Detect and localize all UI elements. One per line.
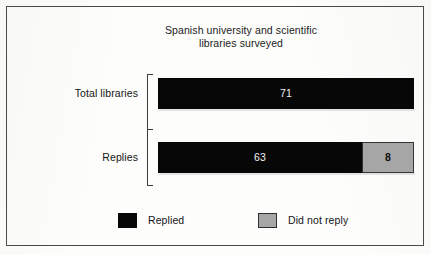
legend-swatch-icon (258, 213, 277, 228)
category-label-total-libraries: Total libraries (18, 87, 138, 99)
bar-segment-replied: 71 (158, 78, 414, 109)
plot-area: 71 63 8 (158, 72, 416, 188)
bar-row-replies: 63 8 (158, 142, 414, 173)
bar-row-total-libraries: 71 (158, 78, 414, 109)
bar-segment-replied: 63 (158, 142, 362, 173)
bar-value-label: 8 (385, 152, 391, 163)
chart-title: Spanish university and scientific librar… (118, 24, 364, 50)
axis-tick-middle (147, 129, 153, 130)
bar-segment-did-not-reply: 8 (362, 142, 414, 173)
category-axis-bracket (147, 74, 155, 186)
legend-swatch-icon (118, 213, 137, 228)
legend-label-replied: Replied (148, 214, 184, 226)
legend-label-did-not-reply: Did not reply (288, 214, 348, 226)
category-label-replies: Replies (18, 151, 138, 163)
chart-figure: Spanish university and scientific librar… (0, 0, 431, 255)
legend-item-replied: Replied (118, 210, 184, 230)
bar-value-label: 63 (254, 152, 266, 163)
axis-tick-top (147, 74, 153, 75)
chart-legend: Replied Did not reply (28, 210, 398, 236)
legend-item-did-not-reply: Did not reply (258, 210, 348, 230)
axis-tick-bottom (147, 185, 153, 186)
bar-value-label: 71 (280, 88, 292, 99)
